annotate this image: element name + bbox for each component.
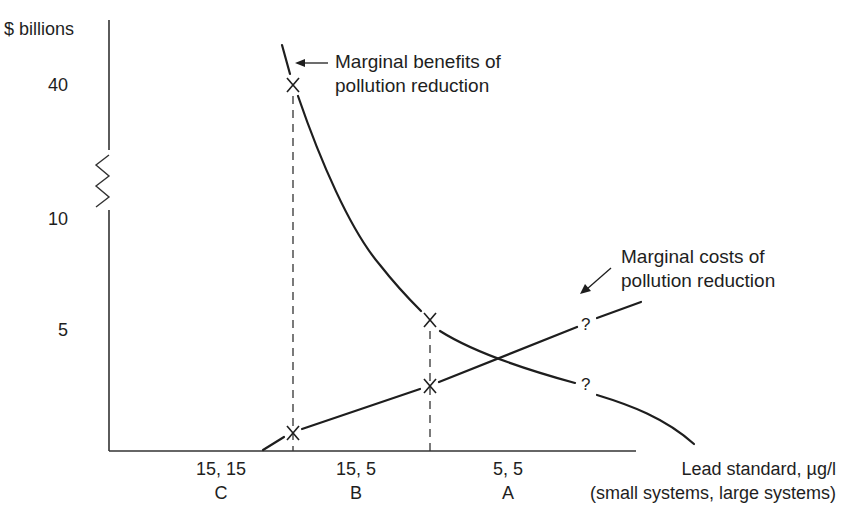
axis-break-icon: [96, 155, 109, 207]
x-tick-a-value: 5, 5: [468, 458, 548, 480]
y-tick-5: 5: [28, 319, 68, 341]
mb-annotation-line2: pollution reduction: [335, 74, 489, 98]
x-tick-c-value: 15, 15: [181, 458, 261, 480]
marker-mb-b: [424, 313, 436, 327]
x-axis-title: Lead standard, µg/l: [682, 458, 836, 480]
y-axis-title: $ billions: [4, 18, 74, 40]
y-tick-40: 40: [28, 74, 68, 96]
mb-annotation-line1: Marginal benefits of: [335, 50, 501, 74]
x-markers: [287, 78, 436, 440]
mc-uncertain-mark: ?: [581, 314, 590, 336]
x-tick-b-letter: B: [336, 482, 376, 504]
mb-annotation-arrow: [295, 59, 328, 67]
x-tick-b-value: 15, 5: [316, 458, 396, 480]
mc-annotation-line2: pollution reduction: [621, 269, 775, 293]
x-axis-subtitle: (small systems, large systems): [590, 482, 836, 504]
mc-annotation-arrow: [580, 268, 611, 294]
y-axis: [96, 20, 109, 451]
y-tick-10: 10: [28, 208, 68, 230]
mb-uncertain-mark: ?: [581, 374, 590, 396]
x-tick-a-letter: A: [488, 482, 528, 504]
mc-annotation-line1: Marginal costs of: [621, 245, 765, 269]
marker-mb-c: [287, 78, 299, 92]
x-tick-c-letter: C: [201, 482, 241, 504]
